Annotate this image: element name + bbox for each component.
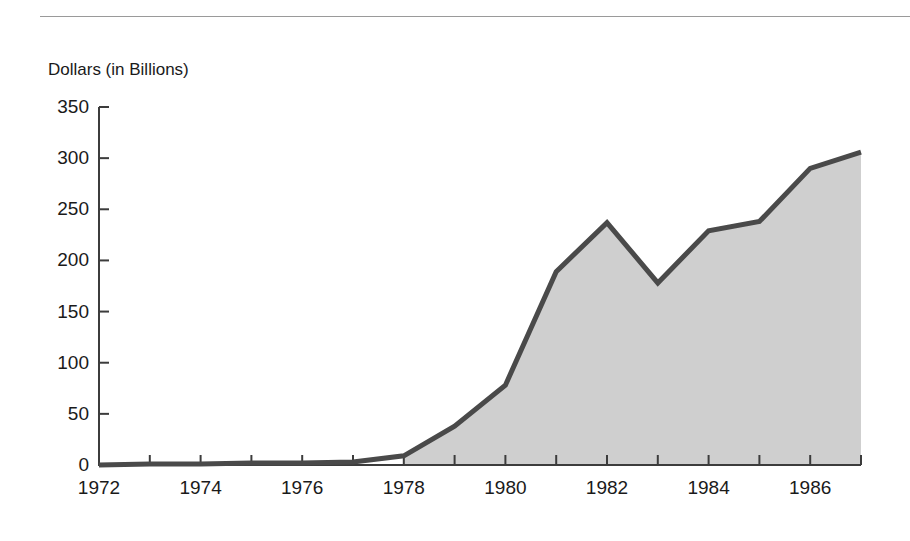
y-tick-label: 0 [43,455,89,474]
x-tick-label: 1980 [470,478,540,497]
y-tick-label: 300 [43,148,89,167]
x-tick-label: 1984 [674,478,744,497]
x-tick-label: 1986 [775,478,845,497]
chart-fill-group [404,152,861,465]
x-tick-label: 1982 [572,478,642,497]
x-tick-label: 1972 [64,478,134,497]
area-chart-plot [0,0,910,541]
x-tick-label: 1978 [369,478,439,497]
area-fill-path [404,152,861,465]
chart-figure: Dollars (in Billions) 050100150200250300… [0,0,910,541]
y-tick-label: 350 [43,97,89,116]
y-tick-label: 200 [43,250,89,269]
y-tick-label: 150 [43,302,89,321]
y-axis-tick-marks [99,107,109,465]
x-tick-label: 1976 [267,478,337,497]
y-tick-label: 50 [43,404,89,423]
y-tick-label: 250 [43,199,89,218]
y-tick-label: 100 [43,353,89,372]
x-tick-label: 1974 [166,478,236,497]
